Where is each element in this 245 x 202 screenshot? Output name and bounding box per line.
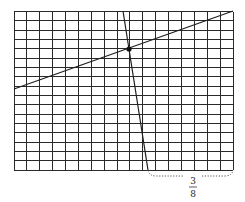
shallow-line <box>14 11 233 89</box>
grid <box>14 12 233 171</box>
plotted-lines <box>14 11 233 170</box>
fraction-label: 3 8 <box>189 176 197 199</box>
fraction-denominator: 8 <box>190 189 196 199</box>
steep-line <box>123 11 148 170</box>
fraction-numerator: 3 <box>190 176 196 186</box>
grid-diagram: 3 8 <box>0 0 245 202</box>
intersection-point <box>126 46 131 51</box>
